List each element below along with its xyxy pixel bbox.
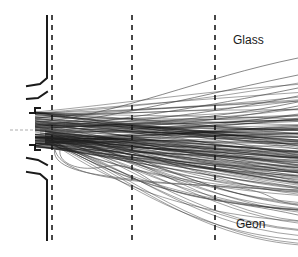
trajectory-diagram: Glass Geon — [0, 0, 298, 257]
geon-label: Geon — [236, 217, 265, 231]
glass-label: Glass — [233, 33, 264, 47]
nozzle-wall-upper — [27, 16, 47, 113]
nozzle-wall-lower — [27, 145, 47, 240]
